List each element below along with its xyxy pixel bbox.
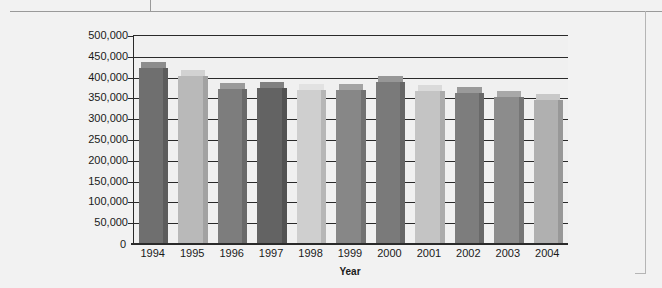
bar-chart: 500,000450,000400,000350,000300,000250,0… <box>0 0 662 288</box>
y-axis-tick <box>128 119 133 120</box>
x-axis-tick-label: 2002 <box>449 248 488 259</box>
y-axis-tick-label: 300,000 <box>88 113 128 124</box>
bar[interactable] <box>297 84 321 244</box>
bar-top-face <box>536 94 560 100</box>
y-axis-tick <box>128 223 133 224</box>
bar-side-face <box>519 97 524 244</box>
bar-top-face <box>181 70 205 76</box>
x-axis-tick-label: 2000 <box>370 248 409 259</box>
bar-front-face <box>494 97 518 244</box>
y-axis-tick <box>128 161 133 162</box>
y-axis-tick-label: 150,000 <box>88 176 128 187</box>
bar-top-face <box>378 76 402 82</box>
bar-top-face <box>457 87 481 93</box>
bar-top-face <box>220 83 244 89</box>
bar-front-face <box>297 90 321 244</box>
y-axis-tick <box>128 78 133 79</box>
bar-top-face <box>339 84 363 90</box>
bar-side-face <box>479 93 484 244</box>
bar[interactable] <box>257 82 281 244</box>
bar[interactable] <box>534 94 558 244</box>
bar-top-face <box>141 62 165 68</box>
y-axis-zero-label: 0 <box>108 238 126 250</box>
bar[interactable] <box>494 91 518 244</box>
plot-area <box>133 35 568 244</box>
bar-side-face <box>203 76 208 244</box>
x-axis-tick-label: 1994 <box>133 248 172 259</box>
bar-side-face <box>282 88 287 244</box>
bar-side-face <box>321 90 326 244</box>
x-axis-tick-label: 1999 <box>330 248 369 259</box>
page-background: 500,000450,000400,000350,000300,000250,0… <box>0 0 662 288</box>
y-axis-tick <box>128 202 133 203</box>
y-axis-tick <box>128 182 133 183</box>
y-axis-tick-label: 400,000 <box>88 72 128 83</box>
y-axis-tick-label: 200,000 <box>88 155 128 166</box>
x-axis-title: Year <box>133 266 567 277</box>
bar-front-face <box>257 88 281 244</box>
x-axis-tick-label: 2003 <box>488 248 527 259</box>
bar[interactable] <box>415 85 439 244</box>
bar-top-face <box>418 85 442 91</box>
x-axis-tick-label: 1997 <box>251 248 290 259</box>
bar-side-face <box>163 68 168 244</box>
bar[interactable] <box>139 62 163 244</box>
bar-side-face <box>440 91 445 244</box>
bar-side-face <box>558 100 563 244</box>
y-axis-tick-label: 500,000 <box>88 30 128 41</box>
bar-top-face <box>497 91 521 97</box>
x-axis-labels: 1994199519961997199819992000200120022003… <box>133 248 567 264</box>
x-axis-tick-label: 1996 <box>212 248 251 259</box>
bar-top-face <box>299 84 323 90</box>
x-axis-tick-label: 2004 <box>528 248 567 259</box>
y-axis-tick <box>128 140 133 141</box>
gridline <box>134 57 568 58</box>
bar[interactable] <box>336 84 360 244</box>
bar-front-face <box>218 89 242 244</box>
bar[interactable] <box>178 70 202 244</box>
bar-front-face <box>534 100 558 244</box>
bar-front-face <box>178 76 202 244</box>
y-axis-tick <box>128 57 133 58</box>
bar-side-face <box>400 82 405 244</box>
bar-side-face <box>242 89 247 244</box>
bar-front-face <box>336 90 360 244</box>
bar-front-face <box>415 91 439 244</box>
y-axis-tick-label: 250,000 <box>88 134 128 145</box>
bar-front-face <box>376 82 400 244</box>
y-axis-tick <box>128 98 133 99</box>
bar[interactable] <box>376 76 400 244</box>
y-axis-tick <box>128 36 133 37</box>
bar-top-face <box>260 82 284 88</box>
x-axis-baseline <box>131 243 568 245</box>
x-axis-tick-label: 1995 <box>172 248 211 259</box>
bar[interactable] <box>218 83 242 244</box>
x-axis-tick-label: 1998 <box>291 248 330 259</box>
bar[interactable] <box>455 87 479 244</box>
y-axis-tick-label: 100,000 <box>88 196 128 207</box>
y-axis-tick-label: 350,000 <box>88 92 128 103</box>
y-axis-tick-label: 50,000 <box>94 217 128 228</box>
bar-front-face <box>139 68 163 244</box>
y-axis-tick-label: 450,000 <box>88 51 128 62</box>
bar-front-face <box>455 93 479 244</box>
bar-side-face <box>361 90 366 244</box>
x-axis-tick-label: 2001 <box>409 248 448 259</box>
